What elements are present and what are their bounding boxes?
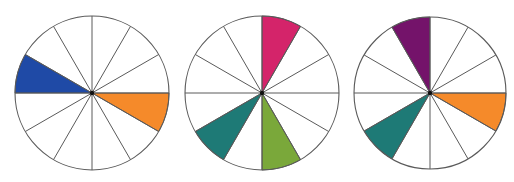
color-wheel-diagram — [0, 0, 514, 182]
color-wheel-triadic — [185, 16, 339, 170]
teal-segment — [195, 93, 262, 160]
wheel-spoke — [54, 93, 93, 160]
color-wheel-triadic-alt — [354, 17, 506, 169]
color-wheels-figure — [0, 0, 514, 182]
wheel-center-dot — [428, 91, 432, 95]
wheel-spoke — [92, 55, 159, 94]
wheel-spoke — [224, 26, 263, 93]
wheel-center-dot — [260, 91, 264, 95]
wheel-spoke — [195, 55, 262, 94]
wheel-spoke — [430, 55, 496, 93]
wheel-spoke — [92, 26, 131, 93]
wheel-spoke — [430, 27, 468, 93]
wheel-center-dot — [90, 91, 94, 95]
wheel-spoke — [25, 93, 92, 132]
teal-segment — [364, 93, 430, 159]
color-wheel-complementary — [15, 16, 169, 170]
